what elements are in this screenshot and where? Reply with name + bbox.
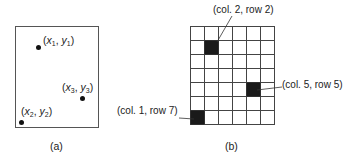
label-col5-row5: (col. 5, row 5) (282, 80, 343, 90)
caption-b: (b) (225, 140, 238, 152)
label-col2-row2: (col. 2, row 2) (213, 5, 274, 15)
label-col1-row7: (col. 1, row 7) (117, 106, 178, 116)
